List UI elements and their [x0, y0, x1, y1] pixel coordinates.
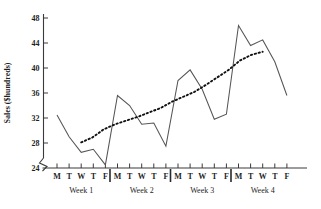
- group-label-3: Week 3: [190, 186, 214, 195]
- group-label-4: Week 4: [251, 186, 275, 195]
- y-tick-label-48: 48: [32, 14, 40, 23]
- x-tick-label-7: W: [138, 172, 146, 181]
- y-axis-break-icon: [40, 158, 48, 171]
- y-tick-label-36: 36: [32, 89, 40, 98]
- trend-line: [81, 52, 263, 143]
- y-tick-label-44: 44: [32, 39, 40, 48]
- x-tick-label-11: T: [187, 172, 193, 181]
- x-tick-label-6: T: [127, 172, 133, 181]
- x-tick-label-12: W: [198, 172, 206, 181]
- x-tick-label-10: M: [174, 172, 182, 181]
- x-tick-label-8: T: [151, 172, 157, 181]
- x-tick-label-14: F: [224, 172, 229, 181]
- y-tick-label-24: 24: [32, 164, 40, 173]
- x-tick-label-1: T: [66, 172, 72, 181]
- y-tick-label-32: 32: [32, 114, 40, 123]
- group-label-2: Week 2: [130, 186, 154, 195]
- y-axis-title: Sales ($hundreds): [3, 62, 12, 123]
- y-tick-label-28: 28: [32, 139, 40, 148]
- x-tick-label-19: F: [284, 172, 289, 181]
- x-tick-label-18: T: [272, 172, 278, 181]
- group-label-1: Week 1: [69, 186, 93, 195]
- line-chart: 24283236404448Sales ($hundreds)MTWTFMTWT…: [0, 0, 321, 209]
- x-tick-label-0: M: [53, 172, 61, 181]
- x-tick-label-3: T: [91, 172, 97, 181]
- x-tick-label-9: F: [163, 172, 168, 181]
- x-tick-label-5: M: [114, 172, 122, 181]
- x-tick-label-2: W: [77, 172, 85, 181]
- x-tick-label-15: M: [235, 172, 243, 181]
- x-tick-label-17: W: [259, 172, 267, 181]
- chart-canvas: 24283236404448Sales ($hundreds)MTWTFMTWT…: [0, 0, 321, 209]
- y-tick-label-40: 40: [32, 64, 40, 73]
- x-tick-label-16: T: [248, 172, 254, 181]
- x-tick-label-4: F: [103, 172, 108, 181]
- x-tick-label-13: T: [212, 172, 218, 181]
- sales-data-line: [57, 26, 287, 165]
